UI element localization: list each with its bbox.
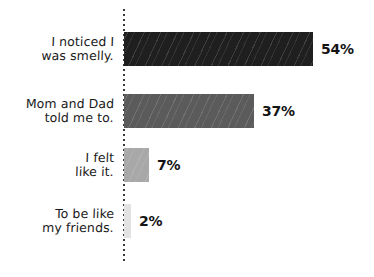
bar-row: I noticed I was smelly. 54% [0, 32, 374, 66]
bar-category-label: Mom and Dad told me to. [0, 97, 114, 125]
bar-row: To be like my friends. 2% [0, 204, 374, 238]
bar-row: I felt like it. 7% [0, 148, 374, 182]
bar-fill [124, 148, 149, 182]
bar-category-label: I noticed I was smelly. [0, 35, 114, 63]
bar-value-label: 54% [321, 41, 354, 57]
bar-container [124, 148, 149, 182]
bar-category-label: To be like my friends. [0, 207, 114, 235]
bar-value-label: 2% [139, 213, 162, 229]
bar-fill [124, 32, 313, 66]
bar-container [124, 32, 313, 66]
bar-row: Mom and Dad told me to. 37% [0, 94, 374, 128]
bar-chart: I noticed I was smelly. 54% Mom and Dad … [0, 0, 374, 277]
bar-category-label: I felt like it. [0, 151, 114, 179]
bar-fill [124, 94, 254, 128]
bar-value-label: 7% [157, 157, 180, 173]
bar-container [124, 204, 131, 238]
bar-container [124, 94, 254, 128]
bar-fill [124, 204, 131, 238]
bar-value-label: 37% [262, 103, 295, 119]
